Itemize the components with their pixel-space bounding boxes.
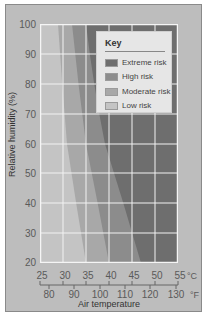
legend-item-high-risk: High risk [105,72,171,82]
legend-label: High risk [122,72,153,82]
legend-item-low-risk: Low risk [105,101,171,111]
legend: Key Extreme risk High risk Moderate risk… [96,31,172,113]
legend-label: Extreme risk [122,58,166,68]
x-axis-label: Air temperature [40,299,178,309]
legend-swatch [105,59,118,67]
unit-fahrenheit: °F [190,290,199,300]
legend-title: Key [105,38,122,48]
x-tick-celsius: 30 [53,270,77,281]
x-tick-celsius: 25 [30,270,54,281]
legend-item-moderate-risk: Moderate risk [105,87,171,97]
x-tick-celsius: 45 [122,270,146,281]
legend-swatch [105,88,118,96]
legend-swatch [105,73,118,81]
legend-divider [105,51,165,52]
legend-label: Low risk [122,101,151,111]
x-tick-celsius: 40 [99,270,123,281]
legend-swatch [105,102,118,110]
legend-label: Moderate risk [122,87,170,97]
unit-celsius: °C [187,271,197,281]
x-tick-celsius: 35 [76,270,100,281]
x-tick-celsius: 50 [145,270,169,281]
legend-item-extreme-risk: Extreme risk [105,58,171,68]
